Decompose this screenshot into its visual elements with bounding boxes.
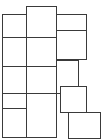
tile-row4-center <box>26 93 57 138</box>
tile-bottom-left <box>2 108 27 138</box>
tile-row3-left <box>2 66 27 94</box>
tile-mid-left <box>2 37 27 67</box>
tiling-figure <box>0 0 103 139</box>
tile-bottom-right <box>68 112 101 139</box>
tile-mid-center <box>26 37 57 67</box>
tile-row4-left <box>2 93 27 109</box>
tile-row4-right <box>60 86 87 113</box>
tile-top-left <box>2 14 27 38</box>
tile-top-center <box>26 6 57 38</box>
tile-row3-center <box>26 66 57 94</box>
tile-mid-right <box>56 30 87 60</box>
